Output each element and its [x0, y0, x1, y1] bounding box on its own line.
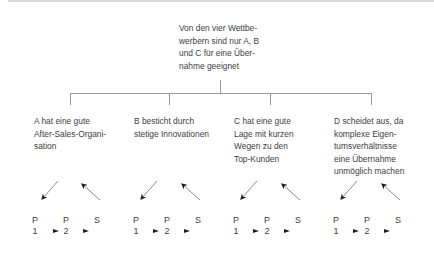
- label-p2-number: 2: [262, 226, 272, 236]
- small-arrow-right-icon: [253, 229, 259, 233]
- leaf-node-c: C hat eine gute Lage mit kurzen Wegen zu…: [234, 115, 334, 165]
- small-arrow-right-icon: [284, 229, 290, 233]
- small-arrow-right-icon: [83, 229, 89, 233]
- connector-root-vertical: [220, 80, 221, 93]
- small-arrow-right-icon: [384, 229, 390, 233]
- label-s-letter: S: [92, 215, 102, 225]
- label-p1-letter: P: [30, 215, 40, 225]
- arrow-group-c: [241, 181, 300, 200]
- label-p2-number: 2: [61, 226, 71, 236]
- small-arrow-right-icon: [53, 229, 59, 233]
- label-p2-letter: P: [362, 215, 372, 225]
- label-p2-number: 2: [362, 226, 372, 236]
- top-rule: [8, 0, 434, 2]
- arrow-up-left-icon: [282, 184, 300, 200]
- arrow-group-d: [341, 181, 400, 200]
- leaf-node-d: D scheidet aus, da komplexe Eigen- tumsv…: [334, 115, 434, 178]
- label-p2-number: 2: [162, 226, 172, 236]
- connector-branch-a: [70, 93, 71, 105]
- small-arrow-right-icon: [184, 229, 190, 233]
- label-p1-number: 1: [331, 226, 341, 236]
- arrow-down-left-icon: [42, 181, 58, 199]
- root-node-text: Von den vier Wettbe- werbern sind nur A,…: [179, 22, 279, 72]
- leaf-node-b: B besticht durch stetige Innovationen: [134, 115, 234, 140]
- connector-branch-d: [371, 93, 372, 105]
- label-p1-letter: P: [131, 215, 141, 225]
- label-p2-letter: P: [61, 215, 71, 225]
- label-p1-letter: P: [331, 215, 341, 225]
- label-p1-number: 1: [231, 226, 241, 236]
- label-p1-number: 1: [30, 226, 40, 236]
- label-s-letter: S: [293, 215, 303, 225]
- arrow-down-left-icon: [241, 181, 257, 199]
- arrow-up-left-icon: [182, 184, 200, 200]
- label-s-letter: S: [193, 215, 203, 225]
- arrow-up-left-icon: [382, 184, 400, 200]
- arrow-up-left-icon: [82, 184, 100, 200]
- connector-horizontal: [70, 93, 372, 94]
- small-arrow-right-icon: [353, 229, 359, 233]
- arrow-down-left-icon: [141, 181, 157, 199]
- label-p1-letter: P: [231, 215, 241, 225]
- connector-branch-b: [169, 93, 170, 105]
- label-p2-letter: P: [162, 215, 172, 225]
- connector-branch-c: [270, 93, 271, 105]
- label-p1-number: 1: [131, 226, 141, 236]
- small-arrow-right-icon: [153, 229, 159, 233]
- arrow-group-b: [141, 181, 200, 200]
- leaf-node-a: A hat eine gute After-Sales-Organi- sati…: [34, 115, 134, 153]
- arrow-group-a: [42, 181, 100, 200]
- arrow-down-left-icon: [341, 181, 357, 199]
- label-s-letter: S: [393, 215, 403, 225]
- label-p2-letter: P: [262, 215, 272, 225]
